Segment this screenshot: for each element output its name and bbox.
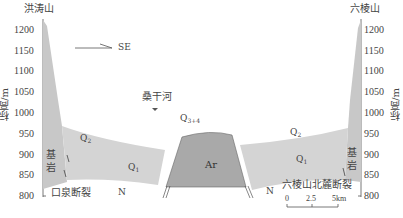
unit-n-left: N bbox=[118, 188, 126, 197]
right-tick-900: 900 bbox=[364, 150, 379, 160]
right-tick-1100: 1100 bbox=[364, 66, 384, 76]
left-tick-1000: 1000 bbox=[14, 108, 34, 118]
scale-bar bbox=[287, 204, 338, 207]
unit-n-right: N bbox=[266, 187, 274, 196]
bedrock-right-label-1: 基 bbox=[347, 148, 357, 158]
direction-arrow bbox=[75, 44, 112, 48]
right-mountain-label: 六棱山 bbox=[350, 4, 380, 14]
unit-q2-right: Q2 bbox=[290, 128, 301, 138]
bedrock-left-label-2: 岩 bbox=[46, 163, 56, 173]
left-tick-950: 950 bbox=[19, 129, 34, 139]
left-y-axis-label: 标高/m bbox=[0, 88, 10, 121]
right-tick-850: 850 bbox=[364, 170, 379, 180]
left-mountain-label: 洪涛山 bbox=[24, 4, 54, 14]
q1-band-left bbox=[62, 126, 165, 185]
fault-label-left: 口泉断裂 bbox=[51, 188, 91, 198]
left-tick-800: 800 bbox=[19, 191, 34, 201]
unit-q1-right: Q1 bbox=[296, 155, 307, 165]
river-label: 桑干河 bbox=[142, 92, 172, 102]
left-tick-1050: 1050 bbox=[14, 87, 34, 97]
direction-label: SE bbox=[118, 43, 131, 52]
fault-label-right: 六棱山北麓断裂 bbox=[282, 180, 352, 190]
right-tick-800: 800 bbox=[364, 191, 379, 201]
bedrock-right-label-2: 岩 bbox=[347, 161, 357, 171]
scale-tick-5km: 5km bbox=[332, 195, 346, 203]
unit-q34: Q3+4 bbox=[180, 114, 200, 124]
bedrock-left-label-1: 基 bbox=[46, 150, 56, 160]
unit-q2-left: Q2 bbox=[80, 134, 91, 144]
right-tick-1200: 1200 bbox=[364, 25, 384, 35]
scale-tick-2-5: 2.5 bbox=[306, 195, 316, 203]
right-tick-1150: 1150 bbox=[364, 46, 384, 56]
right-tick-1050: 1050 bbox=[364, 87, 384, 97]
left-tick-900: 900 bbox=[19, 150, 34, 160]
left-tick-850: 850 bbox=[19, 170, 34, 180]
left-tick-1200: 1200 bbox=[14, 25, 34, 35]
scale-tick-0: 0 bbox=[285, 195, 289, 203]
unit-ar: Ar bbox=[205, 160, 217, 170]
unit-q1-left: Q1 bbox=[128, 163, 139, 173]
left-tick-1150: 1150 bbox=[14, 46, 34, 56]
ar-faults bbox=[163, 186, 253, 198]
left-tick-1100: 1100 bbox=[14, 66, 34, 76]
right-tick-1000: 1000 bbox=[364, 108, 384, 118]
right-tick-950: 950 bbox=[364, 129, 379, 139]
river-marker bbox=[152, 108, 158, 111]
right-y-axis-label: 标高/m bbox=[391, 88, 401, 121]
